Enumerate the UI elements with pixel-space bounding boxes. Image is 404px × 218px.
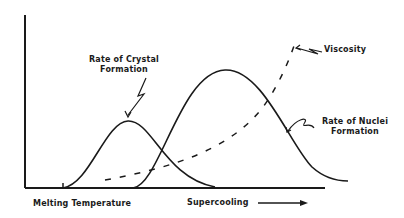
diagram: Rate of Crystal Formation Viscosity Rate… [0,0,404,218]
viscosity-arrowhead-icon [296,45,301,50]
melting-temperature-label: Melting Temperature [33,199,131,209]
crystal-label-line1: Rate of Crystal [86,55,162,65]
nuclei-pointer-icon [288,119,314,131]
nuclei-label-line2: Formation [316,127,394,137]
nuclei-label-line1: Rate of Nuclei [316,117,394,127]
crystal-pointer-icon [128,78,146,115]
crystal-formation-label: Rate of Crystal Formation [86,55,162,75]
viscosity-label: Viscosity [324,45,366,55]
crystal-formation-curve [63,121,215,188]
supercooling-arrowhead-icon [300,200,308,206]
supercooling-label: Supercooling [187,198,249,208]
nuclei-formation-label: Rate of Nuclei Formation [316,117,394,137]
diagram-canvas [0,0,404,218]
viscosity-pointer-icon [297,48,322,54]
crystal-label-line2: Formation [86,65,162,75]
